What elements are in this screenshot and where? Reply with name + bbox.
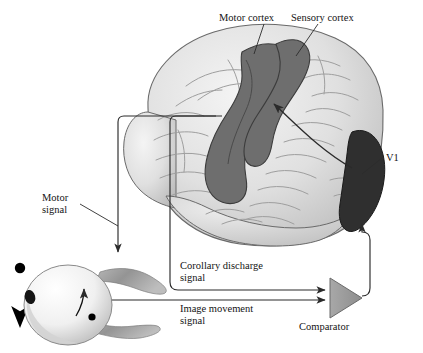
retinal-image-dot (88, 313, 95, 320)
label-motor-signal-line1: Motor (42, 192, 68, 204)
stimulus-dot (15, 263, 25, 273)
comparator-to-v1-path (362, 224, 370, 296)
label-sensory-cortex: Sensory cortex (291, 12, 354, 24)
figure-canvas: Motor cortex Sensory cortex V1 Motor sig… (0, 0, 423, 353)
label-corollary-line2: signal (180, 272, 263, 284)
label-corollary-discharge: Corollary discharge signal (180, 260, 263, 283)
label-v1: V1 (386, 152, 399, 164)
label-image-movement-line1: Image movement (180, 303, 253, 315)
label-motor-signal: Motor signal (42, 192, 68, 215)
stimulus-indicator (15, 263, 25, 325)
label-motor-signal-line2: signal (42, 204, 68, 216)
label-corollary-line1: Corollary discharge (180, 260, 263, 272)
eye-illustration (23, 265, 166, 345)
leader-motor-signal (80, 204, 118, 226)
brain-illustration (124, 24, 385, 246)
comparator-symbol (330, 278, 362, 318)
label-image-movement-line2: signal (180, 315, 253, 327)
eyeball-globe (24, 265, 112, 345)
comparator-triangle (330, 278, 362, 318)
label-motor-cortex: Motor cortex (219, 12, 274, 24)
diagram-svg (0, 0, 423, 353)
label-image-movement: Image movement signal (180, 303, 253, 326)
frontal-lobe (124, 112, 176, 208)
label-comparator: Comparator (299, 321, 349, 333)
